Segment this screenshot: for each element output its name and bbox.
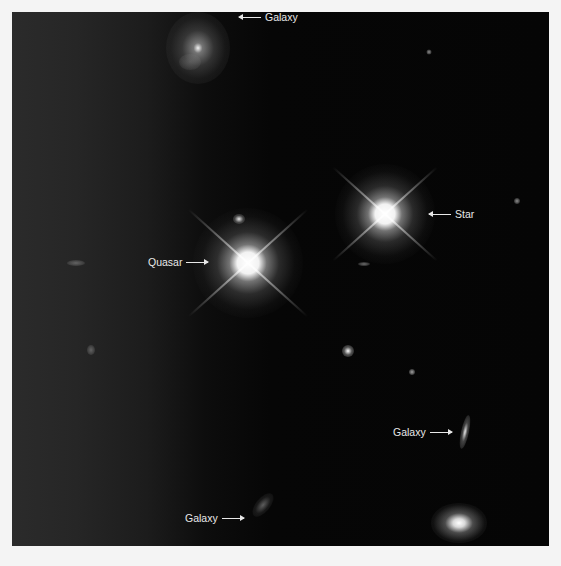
annotation-galaxy-right: Galaxy xyxy=(393,426,452,438)
annotation-text: Galaxy xyxy=(185,512,218,524)
annotation-star: Star xyxy=(429,208,474,220)
compact-source-center xyxy=(342,345,354,357)
faint-smudge-left-2 xyxy=(87,345,95,355)
annotation-text: Star xyxy=(455,208,474,220)
annotation-text: Galaxy xyxy=(265,11,298,23)
astronomical-image xyxy=(12,12,549,546)
faint-source-right xyxy=(514,198,520,204)
annotation-galaxy-bottom: Galaxy xyxy=(185,512,244,524)
faint-streak xyxy=(358,262,370,266)
arrow-left-icon xyxy=(429,214,451,215)
arrow-right-icon xyxy=(430,432,452,433)
faint-galaxy-bottom xyxy=(249,490,278,520)
spiral-galaxy-top xyxy=(166,12,230,84)
annotation-text: Quasar xyxy=(148,256,182,268)
arrow-left-icon xyxy=(239,17,261,18)
arrow-right-icon xyxy=(186,262,208,263)
annotation-galaxy-top: Galaxy xyxy=(239,11,298,23)
edge-on-galaxy-right xyxy=(458,415,473,450)
annotation-quasar: Quasar xyxy=(148,256,208,268)
elliptical-galaxy-bottom-right xyxy=(431,503,487,543)
small-galaxy-near-quasar xyxy=(233,214,245,224)
arrow-right-icon xyxy=(222,518,244,519)
annotation-text: Galaxy xyxy=(393,426,426,438)
faint-source xyxy=(409,369,415,375)
faint-smudge-left xyxy=(67,260,85,266)
spiral-galaxy-top-arm xyxy=(179,54,201,70)
faint-source-top-right xyxy=(427,50,432,55)
